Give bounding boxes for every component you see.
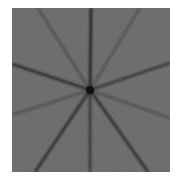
starburst-image	[12, 8, 170, 172]
radial-line	[90, 8, 91, 90]
center-dot	[86, 86, 94, 94]
